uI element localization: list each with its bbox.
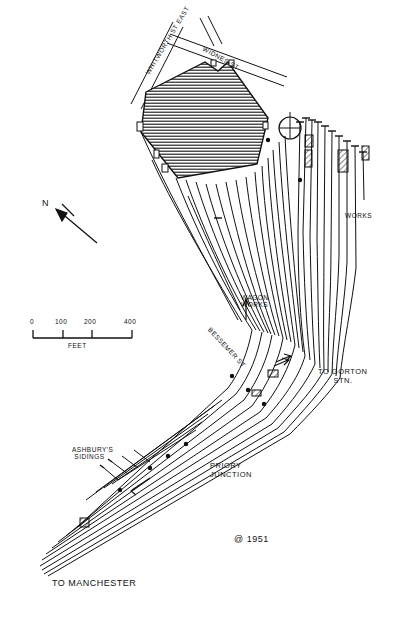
label-works: WORKS (345, 212, 372, 219)
label-ashburys-sidings: ASHBURY'S SIDINGS (72, 446, 113, 461)
map-canvas (0, 0, 394, 617)
date-stamp: @ 1951 (234, 534, 269, 544)
north-arrow-letter: N (42, 198, 49, 208)
switch-marks (118, 138, 301, 491)
railway-track-diagram: WHITWORTH ST EAST WIDNES ST WORKS WAGON … (0, 0, 394, 617)
label-to-gorton-stn: TO GORTON STN. (318, 368, 368, 385)
scale-bar (33, 330, 132, 338)
label-wagon-works: WAGON WORKS (241, 294, 269, 309)
north-arrow (56, 204, 97, 243)
scale-tick-400: 400 (124, 318, 136, 325)
turntable (279, 112, 301, 139)
label-priory-junction: PRIORY JUNCTION (210, 462, 252, 479)
scale-tick-0: 0 (30, 318, 34, 325)
label-to-manchester: TO MANCHESTER (52, 578, 136, 588)
southwest-mainline-bundle (40, 388, 290, 576)
scale-unit-label: FEET (68, 342, 87, 349)
scale-tick-100: 100 (55, 318, 67, 325)
scale-tick-200: 200 (84, 318, 96, 325)
